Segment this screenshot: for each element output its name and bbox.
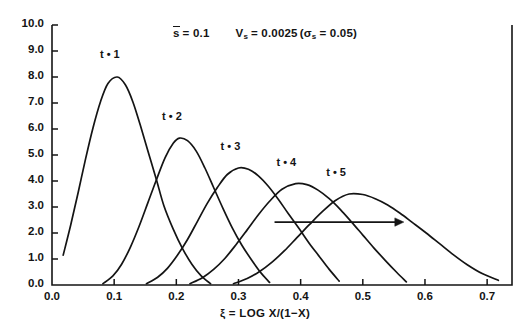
x-axis-title: ξ = LOG X/(1−X) [0, 307, 530, 319]
curve-t-2 [103, 138, 270, 284]
x-tick-label-7: 0.7 [467, 290, 507, 302]
x-tick-label-3: 0.3 [218, 290, 258, 302]
curve-label-t-2: t • 2 [162, 110, 182, 122]
y-tick-label-1: 1.0 [0, 251, 44, 263]
annotation-collection [275, 218, 404, 226]
curve-t-1 [63, 77, 210, 284]
x-tick-label-1: 0.1 [94, 290, 134, 302]
curve-label-t-4: t • 4 [276, 156, 296, 168]
x-tick-label-5: 0.5 [343, 290, 383, 302]
y-tick-label-6: 6.0 [0, 121, 44, 133]
curve-label-t-1: t • 1 [100, 48, 120, 60]
x-tick-label-6: 0.6 [405, 290, 445, 302]
y-tick-label-4: 4.0 [0, 173, 44, 185]
x-tick-label-0: 0.0 [32, 290, 72, 302]
y-tick-label-10: 10.0 [0, 17, 44, 29]
curve-label-t-3: t • 3 [221, 140, 241, 152]
curve-label-t-5: t • 5 [326, 166, 346, 178]
y-tick-label-3: 3.0 [0, 199, 44, 211]
y-tick-label-2: 2.0 [0, 225, 44, 237]
axis-ticks [52, 25, 487, 285]
y-tick-label-9: 9.0 [0, 43, 44, 55]
y-tick-label-0: 0.0 [0, 277, 44, 289]
direction-arrow [275, 218, 404, 226]
plot-area [0, 0, 530, 332]
y-tick-label-5: 5.0 [0, 147, 44, 159]
chart-figure: s= 0.1Vs= 0.0025(σs= 0.05) 0.01.02.03.04… [0, 0, 530, 332]
curve-collection [63, 77, 498, 284]
x-tick-label-4: 0.4 [281, 290, 321, 302]
y-tick-label-8: 8.0 [0, 69, 44, 81]
y-tick-label-7: 7.0 [0, 95, 44, 107]
x-tick-label-2: 0.2 [156, 290, 196, 302]
